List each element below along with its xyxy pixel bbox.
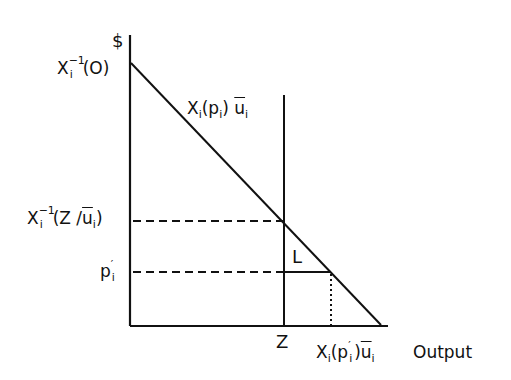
x-prime-output-label: Xi(p′i)ui (316, 344, 375, 364)
y-axis-label: $ (112, 32, 123, 50)
z-price-label: X−1i(Z /ui) (27, 210, 103, 230)
region-l-label: L (292, 248, 302, 266)
z-label: Z (276, 333, 288, 351)
demand-line (131, 63, 381, 325)
x-axis-label: Output (413, 344, 472, 361)
p-prime-label: p′i (100, 263, 119, 280)
y-intercept-label: X−1i(O) (57, 60, 109, 77)
demand-curve-label: Xi(pi) ui (187, 100, 248, 120)
